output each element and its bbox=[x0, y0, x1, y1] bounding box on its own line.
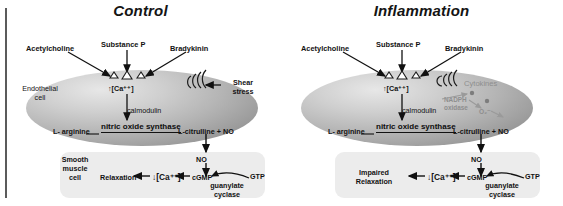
ligand-label-substance-p-infl: Substance P bbox=[376, 40, 420, 49]
panel-control: Control Acetylcholine Substance P Bradyk… bbox=[0, 0, 281, 206]
l-arginine-label-infl: L- arginine bbox=[328, 127, 365, 136]
impaired-relaxation-label-line1: Impaired bbox=[347, 168, 401, 177]
calcium-increase-label-infl: ↑[Ca⁺⁺] bbox=[383, 84, 409, 93]
endothelial-cell-label-line1: Endothelial bbox=[12, 84, 68, 93]
calmodulin-label: calmodulin bbox=[127, 106, 161, 115]
nadph-oxidase-label-line1: NADPH bbox=[444, 96, 467, 103]
l-citrulline-text: L-citrulline + bbox=[178, 127, 223, 136]
guanylate-cyclase-label-line2: cyclase bbox=[204, 190, 250, 199]
ligand-label-bradykinin: Bradykinin bbox=[170, 44, 208, 53]
relaxation-outcome-label: Relaxation bbox=[100, 173, 136, 182]
no-product-text: NO bbox=[223, 127, 234, 136]
calcium-increase-label: ↑[Ca⁺⁺] bbox=[108, 84, 134, 93]
ligand-label-substance-p: Substance P bbox=[101, 40, 145, 49]
smooth-muscle-label-line2: muscle bbox=[52, 164, 98, 173]
figure-canvas: Control Acetylcholine Substance P Bradyk… bbox=[0, 0, 563, 206]
l-citrulline-label: L-citrulline + NO bbox=[178, 127, 234, 136]
gtp-label-infl: GTP bbox=[525, 172, 540, 181]
nitric-oxide-synthase-label-infl: nitric oxide synthase bbox=[376, 122, 456, 133]
nitric-oxide-synthase-label: nitric oxide synthase bbox=[101, 122, 181, 133]
ligand-label-acetylcholine: Acetylcholine bbox=[26, 44, 74, 53]
panel-title-inflammation: Inflammation bbox=[281, 2, 562, 19]
nadph-oxidase-label-line2: oxidase bbox=[444, 104, 468, 111]
shear-stress-label-line2: stress bbox=[222, 87, 264, 96]
no-transfer-label: NO bbox=[196, 155, 207, 164]
panel-inflammation: Inflammation Acetylcholine Substance P B… bbox=[281, 0, 562, 206]
cytokines-label: Cytokines bbox=[464, 79, 497, 88]
shear-stress-label-line1: Shear bbox=[222, 78, 264, 87]
impaired-relaxation-label-line2: Relaxation bbox=[347, 177, 401, 186]
ligand-label-acetylcholine-infl: Acetylcholine bbox=[301, 44, 349, 53]
smooth-muscle-label-line3: cell bbox=[52, 173, 98, 182]
l-citrulline-label-infl: L-citrulline + NO bbox=[453, 127, 509, 136]
endothelial-cell-label-line2: cell bbox=[12, 93, 68, 102]
calmodulin-label-infl: calmodulin bbox=[402, 106, 436, 115]
smooth-muscle-label-line1: Smooth bbox=[52, 155, 98, 164]
panel-title-control: Control bbox=[0, 2, 281, 19]
ligand-label-bradykinin-infl: Bradykinin bbox=[445, 44, 483, 53]
guanylate-cyclase-label-line2-infl: cyclase bbox=[479, 190, 525, 199]
smooth-muscle-calcium-label: ↓[Ca⁺⁺] bbox=[152, 172, 180, 182]
superoxide-radical-label: O₂⁻ bbox=[479, 108, 491, 116]
guanylate-cyclase-label-line1: guanylate bbox=[204, 181, 250, 190]
smooth-muscle-calcium-label-infl: ↓[Ca⁺⁺] bbox=[427, 172, 455, 182]
no-transfer-label-infl: NO bbox=[471, 155, 482, 164]
l-citrulline-text-infl: L-citrulline + bbox=[453, 127, 498, 136]
no-product-text-infl: NO bbox=[498, 127, 509, 136]
guanylate-cyclase-label-line1-infl: guanylate bbox=[479, 181, 525, 190]
gtp-label: GTP bbox=[250, 172, 265, 181]
l-arginine-label: L- arginine bbox=[53, 127, 90, 136]
